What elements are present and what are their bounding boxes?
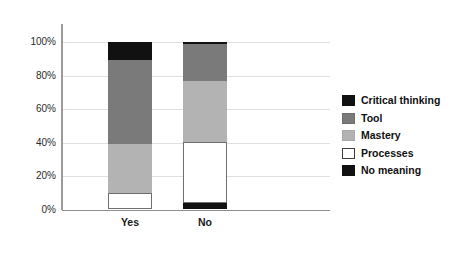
legend-item-label: No meaning [361, 165, 421, 176]
y-tick-label-0: 0% [12, 205, 56, 215]
bar-segment-critical-thinking[interactable] [108, 42, 152, 60]
bar-segment-tool[interactable] [183, 44, 227, 81]
legend-swatch-icon [342, 113, 355, 124]
legend-item[interactable]: Mastery [342, 127, 440, 145]
y-axis-labels: 100% 80% 60% 40% 20% 0% [0, 0, 56, 255]
y-tick-label-20: 20% [12, 171, 56, 181]
bar-yes[interactable] [108, 42, 152, 210]
bar-segment-no-meaning[interactable] [183, 203, 227, 210]
bar-segment-mastery[interactable] [108, 144, 152, 193]
legend-item-label: Mastery [361, 130, 401, 141]
legend-swatch-icon [342, 165, 355, 176]
legend-item[interactable]: Critical thinking [342, 92, 440, 110]
legend-item-label: Processes [361, 148, 414, 159]
legend-item[interactable]: Tool [342, 110, 440, 128]
bar-no[interactable] [183, 42, 227, 210]
bar-segment-tool[interactable] [108, 60, 152, 144]
stacked-bar-chart: 100% 80% 60% 40% 20% 0% Yes No Critical … [0, 0, 460, 255]
x-tick-label-no: No [175, 216, 235, 228]
y-tick-label-40: 40% [12, 138, 56, 148]
x-tick-label-yes: Yes [100, 216, 160, 228]
y-tick-label-80: 80% [12, 71, 56, 81]
y-tick-label-100: 100% [12, 37, 56, 47]
bar-segment-processes[interactable] [183, 142, 227, 202]
legend-item[interactable]: No meaning [342, 162, 440, 180]
legend-item-label: Tool [361, 113, 382, 124]
y-axis-line [61, 24, 63, 210]
y-tick-label-60: 60% [12, 104, 56, 114]
x-axis-line [62, 210, 330, 211]
legend-item[interactable]: Processes [342, 145, 440, 163]
legend: Critical thinkingToolMasteryProcessesNo … [342, 92, 440, 180]
legend-swatch-icon [342, 148, 355, 159]
bar-segment-processes[interactable] [108, 193, 152, 210]
legend-swatch-icon [342, 95, 355, 106]
legend-item-label: Critical thinking [361, 95, 440, 106]
bar-segment-mastery[interactable] [183, 81, 227, 143]
legend-swatch-icon [342, 130, 355, 141]
